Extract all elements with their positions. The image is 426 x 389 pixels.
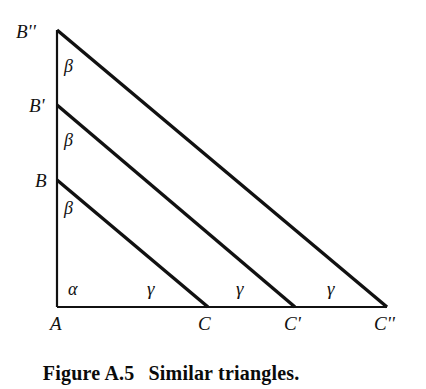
- angle-beta-bottom: β: [64, 199, 73, 217]
- vertex-label-c-double-prime: C'': [374, 314, 395, 333]
- figure-caption: Figure A.5Similar triangles.: [22, 339, 299, 389]
- angle-alpha: α: [68, 280, 77, 298]
- vertex-label-b-double-prime: B'': [16, 22, 36, 41]
- vertex-label-c: C: [198, 314, 211, 333]
- hypotenuse-b-prime-to-c-prime: [57, 105, 295, 307]
- segments-group: [57, 30, 387, 307]
- vertex-label-c-prime: C': [284, 314, 301, 333]
- vertex-label-a: A: [50, 314, 62, 333]
- angle-gamma-first: γ: [147, 279, 155, 298]
- angle-beta-middle: β: [64, 131, 73, 149]
- vertex-label-b-prime: B': [29, 96, 45, 115]
- angle-gamma-third: γ: [327, 279, 335, 298]
- figure-caption-label: Figure A.5: [43, 362, 135, 384]
- hypotenuse-b-double-prime-to-c-double-prime: [57, 30, 387, 307]
- hypotenuse-b-to-c: [57, 180, 208, 307]
- vertex-label-b: B: [35, 171, 47, 190]
- angle-gamma-second: γ: [236, 279, 244, 298]
- figure-caption-text: Similar triangles.: [148, 362, 299, 384]
- angle-beta-top: β: [64, 57, 73, 75]
